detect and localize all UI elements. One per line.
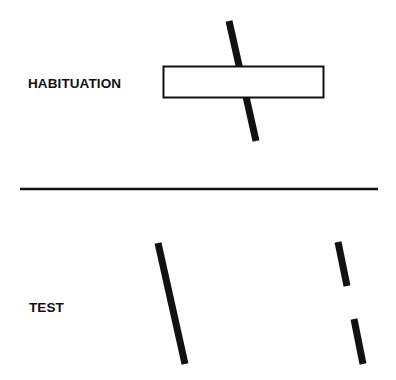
diagram-graphics [0, 0, 396, 380]
diagram-canvas: HABITUATION TEST [0, 0, 396, 380]
occluder-rectangle [164, 67, 324, 98]
test-complete-bar [158, 243, 185, 364]
test-broken-bar-lower-segment [354, 319, 363, 364]
test-broken-bar-upper-segment [338, 242, 347, 286]
